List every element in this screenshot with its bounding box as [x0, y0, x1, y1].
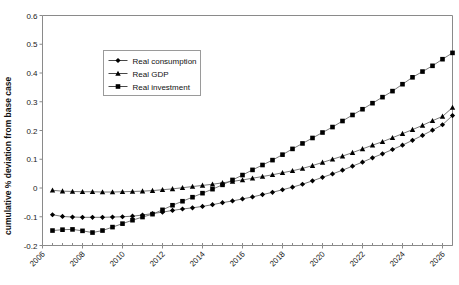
data-point-square — [70, 227, 75, 232]
data-point-diamond — [350, 164, 355, 169]
data-point-triangle — [430, 118, 435, 123]
data-point-square — [170, 203, 175, 208]
data-point-triangle — [420, 123, 425, 128]
data-point-square — [400, 82, 405, 87]
data-point-diamond — [70, 214, 75, 219]
data-point-diamond — [100, 215, 105, 220]
data-point-square — [410, 75, 415, 80]
data-point-diamond — [190, 205, 195, 210]
data-point-triangle — [360, 146, 365, 151]
y-tick-label: 0.6 — [26, 12, 38, 21]
legend-label: Real GDP — [133, 70, 169, 79]
data-point-diamond — [390, 147, 395, 152]
y-tick-label: 0.5 — [26, 40, 38, 49]
data-point-square — [80, 229, 85, 234]
x-tick-label: 2008 — [68, 249, 87, 268]
data-point-square — [100, 228, 105, 233]
x-tick-label: 2026 — [428, 249, 447, 268]
data-point-square — [420, 69, 425, 74]
data-point-diamond — [270, 190, 275, 195]
data-point-square — [320, 130, 325, 135]
y-tick-label: -0.2 — [24, 242, 38, 251]
y-axis-title-group: cumulative % deviation from base case — [3, 76, 13, 235]
x-tick-label: 2006 — [28, 249, 47, 268]
x-tick-label: 2018 — [268, 249, 287, 268]
y-tick-label: 0.1 — [26, 155, 38, 164]
data-point-diamond — [320, 175, 325, 180]
data-point-diamond — [330, 171, 335, 176]
data-point-diamond — [310, 178, 315, 183]
y-tick-label: 0 — [33, 184, 38, 193]
data-point-square — [430, 64, 435, 69]
data-point-diamond — [340, 168, 345, 173]
data-point-square — [310, 136, 315, 141]
data-point-square — [360, 107, 365, 112]
data-point-square — [50, 228, 55, 233]
data-point-square — [150, 212, 155, 217]
series-line — [53, 116, 453, 218]
data-point-square — [60, 227, 65, 232]
x-axis-ticks: 2006200820102012201420162018202020222024… — [28, 243, 453, 268]
data-point-square — [140, 215, 145, 220]
data-point-square — [440, 57, 445, 62]
data-point-square — [240, 173, 245, 178]
data-point-diamond — [60, 214, 65, 219]
data-point-square — [90, 230, 95, 235]
data-point-diamond — [250, 194, 255, 199]
data-point-triangle — [450, 105, 455, 110]
data-point-square — [390, 89, 395, 94]
data-point-diamond — [280, 187, 285, 192]
data-point-diamond — [180, 206, 185, 211]
data-point-square — [230, 178, 235, 183]
data-point-square — [120, 221, 125, 226]
data-point-square — [160, 208, 165, 213]
data-point-square — [280, 152, 285, 157]
data-point-square — [270, 158, 275, 163]
data-point-diamond — [80, 215, 85, 220]
line-chart: cumulative % deviation from base case 0.… — [0, 0, 459, 285]
data-point-diamond — [260, 192, 265, 197]
data-point-diamond — [400, 143, 405, 148]
data-point-square — [260, 163, 265, 168]
y-axis-ticks: 0.60.50.40.30.20.10-0.1-0.2 — [24, 12, 43, 251]
y-tick-label: 0.4 — [26, 69, 38, 78]
data-point-triangle — [350, 150, 355, 155]
y-tick-label: 0.2 — [26, 127, 38, 136]
data-point-square — [380, 95, 385, 100]
x-tick-label: 2014 — [188, 249, 207, 268]
data-point-square — [300, 141, 305, 146]
y-tick-label: -0.1 — [24, 213, 38, 222]
data-point-diamond — [360, 160, 365, 165]
data-point-square — [190, 195, 195, 200]
data-point-diamond — [290, 185, 295, 190]
data-point-diamond — [430, 128, 435, 133]
x-tick-label: 2016 — [228, 249, 247, 268]
series-real-consumption — [50, 113, 455, 220]
legend-label: Real investment — [133, 83, 191, 92]
data-point-square — [130, 218, 135, 223]
data-point-diamond — [410, 138, 415, 143]
data-point-diamond — [170, 208, 175, 213]
data-point-square — [200, 191, 205, 196]
data-point-diamond — [380, 151, 385, 156]
data-point-square — [340, 119, 345, 124]
legend-label: Real consumption — [133, 57, 197, 66]
x-tick-label: 2020 — [308, 249, 327, 268]
y-axis-title: cumulative % deviation from base case — [3, 76, 13, 235]
data-point-square — [290, 147, 295, 152]
data-point-diamond — [240, 196, 245, 201]
data-point-diamond — [120, 214, 125, 219]
chart-legend: Real consumptionReal GDPReal investment — [104, 51, 201, 96]
chart-container: cumulative % deviation from base case 0.… — [0, 0, 459, 285]
data-point-square — [110, 225, 115, 230]
data-point-square — [330, 125, 335, 130]
data-point-diamond — [420, 133, 425, 138]
data-point-square — [450, 51, 455, 56]
data-point-triangle — [50, 188, 55, 193]
data-point-square — [210, 187, 215, 192]
data-point-square — [250, 168, 255, 173]
data-point-diamond — [90, 215, 95, 220]
x-tick-label: 2012 — [148, 249, 167, 268]
data-point-diamond — [220, 200, 225, 205]
data-point-triangle — [390, 135, 395, 140]
